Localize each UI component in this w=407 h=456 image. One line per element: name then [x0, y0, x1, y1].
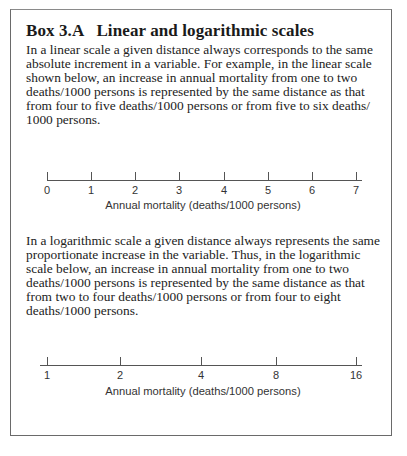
tick-label: 16 [350, 369, 362, 381]
tick-label: 2 [117, 369, 123, 381]
tick-label: 6 [309, 184, 315, 196]
text-line: deaths/1000 persons is represented by th… [26, 276, 380, 290]
tick-label: 8 [273, 369, 279, 381]
linear-axis-title: Annual mortality (deaths/1000 persons) [105, 199, 300, 211]
text-line: In a logarithmic scale a given distance … [26, 234, 380, 248]
text-line: proportionate increase in the variable. … [26, 248, 380, 262]
tick-label: 4 [221, 184, 227, 196]
tick-label: 5 [265, 184, 271, 196]
text-line: scale below, an increase in annual morta… [26, 262, 380, 276]
tick-label: 4 [198, 369, 204, 381]
text-line: deaths/1000 persons. [26, 304, 380, 318]
tick-label: 1 [88, 184, 94, 196]
tick-label: 0 [44, 184, 50, 196]
tick-label: 7 [353, 184, 359, 196]
paragraph-logarithmic: In a logarithmic scale a given distance … [26, 234, 380, 318]
tick-label: 1 [44, 369, 50, 381]
text-line: from two to four deaths/1000 persons or … [26, 290, 380, 304]
tick-label: 3 [176, 184, 182, 196]
log-axis-title: Annual mortality (deaths/1000 persons) [105, 385, 300, 397]
tick-label: 2 [132, 184, 138, 196]
